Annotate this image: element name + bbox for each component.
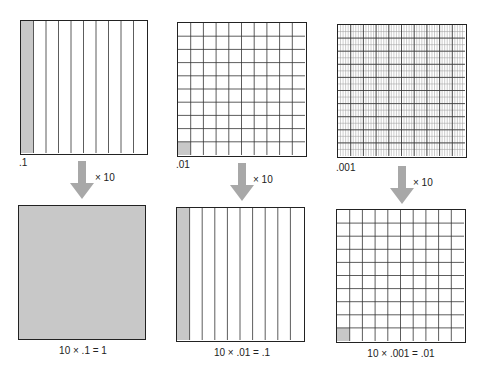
tenths-result-grid-lines <box>177 208 303 340</box>
tenths-grid <box>20 20 148 155</box>
down-arrow-icon <box>390 166 414 204</box>
hundredths-grid-lines <box>178 23 305 155</box>
equation-caption: 10 × .01 = .1 <box>214 347 270 358</box>
thousandths-grid <box>337 24 467 158</box>
multiplier-label: × 10 <box>253 174 273 185</box>
hundredths-label: .01 <box>176 159 190 170</box>
hundredths-result-grid-lines <box>337 210 464 341</box>
equation-caption: 10 × .001 = .01 <box>367 348 434 359</box>
down-arrow-icon <box>230 163 254 201</box>
down-arrow-icon <box>70 161 94 199</box>
hundredths-grid <box>177 22 307 157</box>
thousandths-grid-lines <box>338 25 465 156</box>
equation-caption: 10 × .1 = 1 <box>59 345 107 356</box>
multiplier-label: × 10 <box>95 172 115 183</box>
tenths-result-grid <box>176 207 305 342</box>
whole-grid <box>18 205 146 340</box>
tenths-label: .1 <box>19 157 27 168</box>
hundredths-result-grid <box>336 209 466 343</box>
thousandths-label: .001 <box>336 162 355 173</box>
tenths-grid-lines <box>21 21 146 153</box>
multiplier-label: × 10 <box>413 177 433 188</box>
